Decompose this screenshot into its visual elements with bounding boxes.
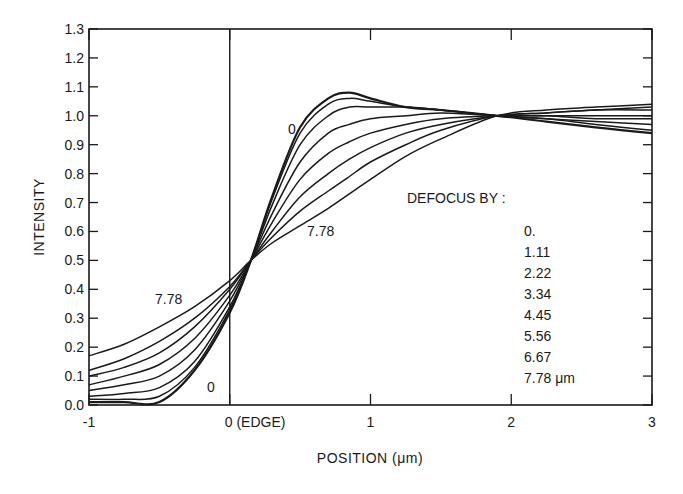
y-tick-label: 1.3 (65, 21, 85, 37)
y-axis: 0.00.10.20.30.40.50.60.70.80.91.01.11.21… (65, 21, 652, 413)
y-axis-title: INTENSITY (31, 178, 47, 256)
y-tick-label: 0.9 (65, 137, 85, 153)
curve-defocus-556 (89, 110, 652, 376)
curve-annotation: 0 (288, 121, 296, 137)
curve-defocus-334 (89, 113, 652, 391)
curve-annotations: 07.787.780 (155, 121, 334, 395)
plot-border (89, 29, 652, 405)
curve-defocus-222 (89, 106, 652, 396)
legend-entry: 3.34 (524, 286, 551, 302)
curve-annotation: 7.78 (307, 223, 334, 239)
legend-entry: 0. (524, 223, 536, 239)
curve-defocus-0 (89, 93, 652, 405)
y-tick-label: 1.2 (65, 50, 85, 66)
x-tick-label: -1 (83, 414, 96, 430)
y-tick-label: 0.6 (65, 223, 85, 239)
defocus-curves (89, 93, 652, 405)
x-tick-label: 0 (EDGE) (225, 414, 286, 430)
legend-entry: 2.22 (524, 265, 551, 281)
legend-entry: 5.56 (524, 328, 551, 344)
curve-defocus-778 (89, 104, 652, 356)
x-axis-title: POSITION (μm) (317, 450, 423, 466)
curve-defocus-111 (89, 98, 652, 399)
x-tick-label: 3 (648, 414, 656, 430)
y-tick-label: 0.7 (65, 195, 85, 211)
legend-entry: 7.78 μm (524, 370, 575, 386)
edge-response-chart: 0.00.10.20.30.40.50.60.70.80.91.01.11.21… (0, 0, 683, 494)
legend-entry: 1.11 (524, 244, 550, 260)
legend-entry: 6.67 (524, 349, 551, 365)
y-tick-label: 1.0 (65, 108, 85, 124)
curve-annotation: 7.78 (155, 291, 182, 307)
y-tick-label: 0.3 (65, 310, 85, 326)
y-tick-label: 0.2 (65, 339, 85, 355)
plot-frame (89, 29, 652, 405)
y-tick-label: 1.1 (65, 79, 85, 95)
curve-defocus-667 (89, 107, 652, 370)
legend: DEFOCUS BY :0.1.112.223.344.455.566.677.… (407, 190, 575, 386)
y-tick-label: 0.0 (65, 397, 85, 413)
legend-entry: 4.45 (524, 307, 551, 323)
y-tick-label: 0.5 (65, 252, 85, 268)
x-tick-label: 1 (367, 414, 375, 430)
curve-annotation: 0 (207, 379, 215, 395)
y-tick-label: 0.4 (65, 281, 85, 297)
y-tick-label: 0.8 (65, 166, 85, 182)
y-tick-label: 0.1 (65, 368, 85, 384)
x-tick-label: 2 (507, 414, 515, 430)
legend-title: DEFOCUS BY : (407, 190, 506, 206)
